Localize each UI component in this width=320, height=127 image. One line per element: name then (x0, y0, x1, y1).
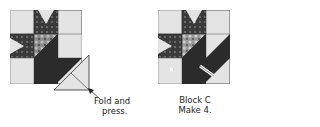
fold-annotation-line1: Fold and (94, 96, 130, 106)
quilt-block-finished (158, 10, 230, 84)
block-caption-quantity: Make 4. (174, 105, 216, 115)
block-caption-title: Block C (174, 95, 216, 105)
fold-annotation-line2: press. (94, 106, 130, 116)
fold-annotation: Fold and press. (94, 96, 130, 116)
block-caption: Block C Make 4. (174, 95, 216, 115)
